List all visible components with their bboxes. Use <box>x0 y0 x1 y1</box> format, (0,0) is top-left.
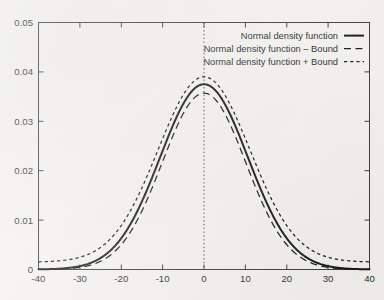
x-tick-label: 30 <box>323 273 334 284</box>
normal-density-plot: -40 -30 -20 -10 0 10 20 30 40 0 0.01 0.0… <box>0 0 384 300</box>
curve-normal-density <box>39 84 370 269</box>
x-tick-label: -30 <box>73 273 87 284</box>
y-tick-label: 0.04 <box>14 66 33 77</box>
y-tick-label: 0.01 <box>14 215 33 226</box>
x-tick-label: 0 <box>201 273 206 284</box>
x-tick-label: -20 <box>114 273 128 284</box>
legend-label-normal-density: Normal density function <box>241 31 338 41</box>
y-tick-label: 0.03 <box>14 116 33 127</box>
x-tick-label: 20 <box>281 273 292 284</box>
curve-normal-density-plus-bound <box>39 77 370 262</box>
x-tick-label: -40 <box>32 273 46 284</box>
x-tick-label: -10 <box>156 273 170 284</box>
y-tick-label: 0.05 <box>14 17 33 28</box>
x-tick-label: 40 <box>364 273 375 284</box>
x-tick-labels: -40 -30 -20 -10 0 10 20 30 40 <box>32 273 375 284</box>
legend: Normal density function Normal density f… <box>203 31 364 67</box>
y-tick-label: 0 <box>28 264 33 275</box>
legend-label-minus-bound: Normal density function – Bound <box>204 44 338 54</box>
y-tick-labels: 0 0.01 0.02 0.03 0.04 0.05 <box>14 17 33 275</box>
legend-label-plus-bound: Normal density function + Bound <box>203 57 338 67</box>
y-tick-label: 0.02 <box>14 165 33 176</box>
x-tick-label: 10 <box>240 273 251 284</box>
figure-container: -40 -30 -20 -10 0 10 20 30 40 0 0.01 0.0… <box>0 0 384 300</box>
